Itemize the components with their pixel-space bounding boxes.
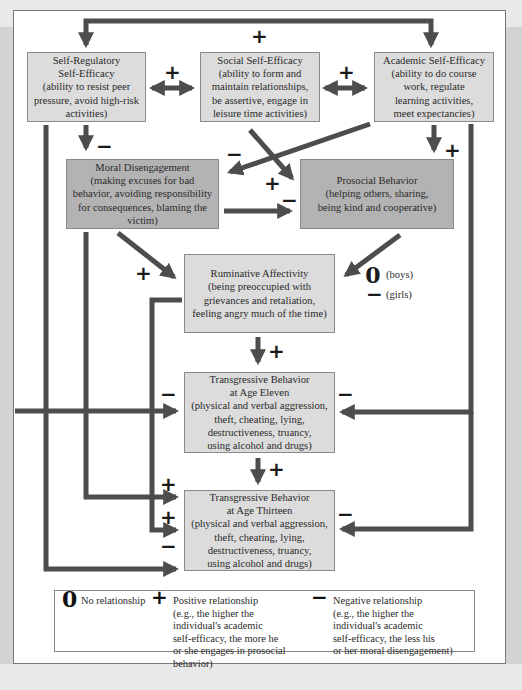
sign-left-t11: −	[160, 384, 176, 404]
box-desc: using alcohol and drugs)	[189, 557, 330, 570]
sign-prosocial-ruminative-girls: −	[366, 284, 382, 304]
box-title: Social Self-Efficacy	[205, 54, 315, 67]
legend-negative-line: individual's academic	[333, 620, 453, 633]
legend-zero-icon: 0	[62, 593, 77, 606]
box-title: Transgressive Behavior	[189, 491, 330, 504]
box-title: Transgressive Behavior	[189, 373, 330, 386]
box-transgressive-age-eleven: Transgressive Behavior at Age Eleven (ph…	[184, 372, 335, 453]
box-desc: using alcohol and drugs)	[189, 439, 330, 452]
box-desc: meet expectancies)	[379, 107, 489, 120]
box-desc: for consequences, blaming the	[71, 201, 214, 214]
box-desc: theft, cheating, lying,	[189, 531, 330, 544]
legend-positive-line: individual's academic	[173, 620, 286, 633]
box-desc: learning activities,	[379, 94, 489, 107]
legend-minus-icon: −	[311, 591, 328, 604]
legend-negative-line: Negative relationship	[333, 595, 453, 608]
legend-negative-line: or her moral disengagement)	[333, 645, 453, 658]
sign-selfreg-moral: −	[96, 136, 112, 156]
note-girls: (girls)	[386, 289, 412, 300]
sign-social-prosocial: +	[264, 173, 280, 193]
box-transgressive-age-thirteen: Transgressive Behavior at Age Thirteen (…	[184, 490, 335, 571]
sign-social-academic: +	[338, 62, 354, 82]
box-title-2: Self-Efficacy	[32, 67, 141, 80]
sign-t11-t13: +	[268, 459, 284, 479]
box-desc: feeling angry much of the time)	[189, 307, 330, 320]
box-desc: theft, cheating, lying,	[189, 413, 330, 426]
legend-plus-icon: +	[151, 591, 168, 604]
legend-positive-line: (e.g., the higher the	[173, 608, 286, 621]
sign-selfreg-t13: −	[160, 536, 176, 556]
legend-positive-line: or she engages in prosocial	[173, 645, 286, 658]
sign-selfreg-social: +	[164, 62, 180, 82]
legend-positive-line: self-efficacy, the more he	[173, 633, 286, 646]
box-title-2: at Age Eleven	[189, 386, 330, 399]
legend: 0 No relationship + Positive relationshi…	[54, 590, 475, 652]
legend-negative-text: Negative relationship (e.g., the higher …	[333, 595, 453, 658]
sign-moral-t13: +	[160, 474, 176, 494]
box-desc: pressure, avoid high-risk	[32, 94, 141, 107]
box-title: Self-Regulatory	[32, 54, 141, 67]
box-prosocial-behavior: Prosocial Behavior (helping others, shar…	[300, 159, 454, 229]
box-self-regulatory-self-efficacy: Self-Regulatory Self-Efficacy (ability t…	[27, 52, 146, 122]
arrow-right-t13	[342, 412, 471, 529]
sign-right-t13: −	[337, 504, 353, 524]
box-title: Academic Self-Efficacy	[379, 54, 489, 67]
box-desc: (ability to do course	[379, 67, 489, 80]
legend-negative-line: self-efficacy, the less his	[333, 633, 453, 646]
box-desc: be assertive, engage in	[205, 94, 315, 107]
box-academic-self-efficacy: Academic Self-Efficacy (ability to do co…	[374, 52, 494, 122]
sign-moral-ruminative: +	[135, 263, 151, 283]
sign-ruminative-t11: +	[268, 341, 284, 361]
box-desc: destructiveness, truancy,	[189, 544, 330, 557]
box-title: Ruminative Affectivity	[189, 267, 330, 280]
sign-academic-prosocial: +	[444, 140, 460, 160]
box-title: Prosocial Behavior	[305, 174, 449, 187]
box-title-2: at Age Thirteen	[189, 504, 330, 517]
arrow-moral-t13	[86, 232, 176, 497]
legend-positive-text: Positive relationship (e.g., the higher …	[173, 595, 286, 671]
box-desc: leisure time activities)	[205, 107, 315, 120]
box-desc: destructiveness, truancy,	[189, 426, 330, 439]
box-desc: (making excuses for bad	[71, 174, 214, 187]
box-desc: (physical and verbal aggression,	[189, 399, 330, 412]
sign-ruminative-t13: +	[160, 507, 176, 527]
sign-top-loop: +	[251, 26, 267, 46]
sign-academic-moral: −	[226, 144, 242, 164]
note-boys: (boys)	[386, 269, 413, 280]
box-desc: work, regulate	[379, 80, 489, 93]
box-moral-disengagement: Moral Disengagement (making excuses for …	[66, 159, 219, 229]
box-desc: activities)	[32, 107, 141, 120]
sign-right-t11: −	[337, 384, 353, 404]
legend-none-label: No relationship	[81, 595, 145, 608]
legend-positive-line: behavior)	[173, 658, 286, 671]
box-desc: behavior, avoiding responsibility	[71, 187, 214, 200]
box-social-self-efficacy: Social Self-Efficacy (ability to form an…	[200, 52, 320, 122]
sign-moral-prosocial: −	[281, 190, 297, 210]
legend-negative-line: (e.g., the higher the	[333, 608, 453, 621]
legend-positive-line: Positive relationship	[173, 595, 286, 608]
box-title: Moral Disengagement	[71, 161, 214, 174]
box-desc: (physical and verbal aggression,	[189, 517, 330, 530]
box-desc: (ability to form and	[205, 67, 315, 80]
box-desc: (helping others, sharing,	[305, 187, 449, 200]
box-desc: being kind and cooperative)	[305, 201, 449, 214]
box-desc: (ability to resist peer	[32, 80, 141, 93]
box-desc: grievances and retaliation,	[189, 294, 330, 307]
box-desc: maintain relationships,	[205, 80, 315, 93]
box-desc: (being preoccupied with	[189, 280, 330, 293]
box-desc: victim)	[71, 214, 214, 227]
box-ruminative-affectivity: Ruminative Affectivity (being preoccupie…	[184, 254, 335, 333]
